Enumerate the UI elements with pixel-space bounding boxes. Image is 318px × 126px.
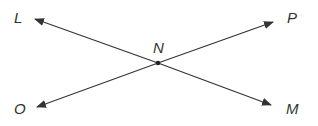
label-L: L [14, 10, 22, 25]
label-P: P [287, 10, 297, 25]
ray-NL [35, 19, 158, 63]
label-O: O [14, 101, 26, 116]
lines-svg [0, 0, 318, 126]
label-N: N [153, 40, 164, 55]
label-M: M [286, 101, 299, 116]
intersection-point [156, 61, 161, 66]
ray-NM [158, 63, 271, 105]
diagram-canvas: L P N O M [0, 0, 318, 126]
ray-NP [158, 22, 273, 63]
ray-NO [37, 63, 158, 107]
